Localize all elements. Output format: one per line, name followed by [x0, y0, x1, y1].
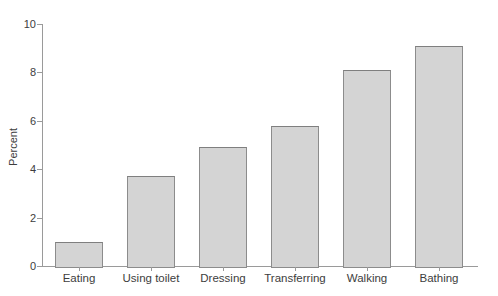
y-tick-label: 4 [6, 163, 36, 176]
bar-walking [343, 70, 391, 268]
bar-dressing [199, 147, 247, 268]
y-tick-mark [37, 24, 42, 25]
x-axis-line [42, 266, 478, 267]
y-tick-mark [37, 218, 42, 219]
y-axis-title: Percent [7, 128, 19, 166]
y-tick-label: 2 [6, 212, 36, 225]
x-tick-mark [439, 267, 440, 271]
bar-using-toilet [127, 176, 175, 268]
y-tick-label: 10 [6, 18, 36, 31]
y-tick-mark [37, 266, 42, 267]
y-axis-line [42, 24, 43, 267]
y-tick-mark [37, 72, 42, 73]
x-tick-label: Bathing [391, 272, 487, 285]
bar-eating [55, 242, 103, 268]
y-tick-mark [37, 121, 42, 122]
x-tick-mark [295, 267, 296, 271]
x-tick-mark [79, 267, 80, 271]
x-tick-mark [151, 267, 152, 271]
bar-chart: Percent 0246810 EatingUsing toiletDressi… [0, 0, 498, 296]
y-tick-label: 8 [6, 66, 36, 79]
x-tick-mark [367, 267, 368, 271]
y-tick-mark [37, 169, 42, 170]
bar-transferring [271, 126, 319, 268]
x-tick-mark [223, 267, 224, 271]
bar-bathing [415, 46, 463, 268]
y-tick-label: 6 [6, 115, 36, 128]
